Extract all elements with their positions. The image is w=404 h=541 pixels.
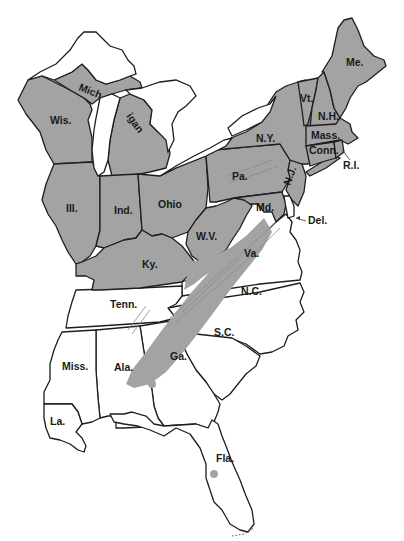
label-florida: Fla. xyxy=(216,452,234,464)
shaded-spot-georgia xyxy=(148,380,156,388)
label-rhode-island: R.I. xyxy=(343,159,359,171)
label-georgia: Ga. xyxy=(170,350,187,362)
label-kentucky: Ky. xyxy=(142,258,158,270)
label-illinois: Ill. xyxy=(66,202,78,214)
label-north-carolina: N.C. xyxy=(241,285,262,297)
del-arrowhead xyxy=(296,216,300,220)
label-maryland: Md. xyxy=(256,201,274,213)
label-wisconsin: Wis. xyxy=(50,114,72,126)
eastern-us-map: Wis. Mich igan Ill. Ind. Ohio Ky. W.V. P… xyxy=(0,0,404,541)
label-ohio: Ohio xyxy=(158,198,182,210)
label-vermont: Vt. xyxy=(300,92,314,104)
label-connecticut: Conn. xyxy=(309,144,339,156)
label-west-virginia: W.V. xyxy=(196,230,217,242)
label-louisiana: La. xyxy=(50,415,65,427)
label-pennsylvania: Pa. xyxy=(232,170,248,182)
label-indiana: Ind. xyxy=(114,204,133,216)
label-new-york: N.Y. xyxy=(256,132,275,144)
label-new-hampshire: N.H. xyxy=(318,110,339,122)
label-tennessee: Tenn. xyxy=(110,298,137,310)
label-south-carolina: S.C. xyxy=(214,326,235,338)
label-virginia: Va. xyxy=(244,247,259,259)
label-mississippi: Miss. xyxy=(62,360,88,372)
shaded-spot-florida xyxy=(210,470,218,478)
state-florida xyxy=(110,412,254,532)
label-maine: Me. xyxy=(346,56,364,68)
label-delaware: Del. xyxy=(308,214,327,226)
label-alabama: Ala. xyxy=(114,361,133,373)
label-massachusetts: Mass. xyxy=(311,129,340,141)
